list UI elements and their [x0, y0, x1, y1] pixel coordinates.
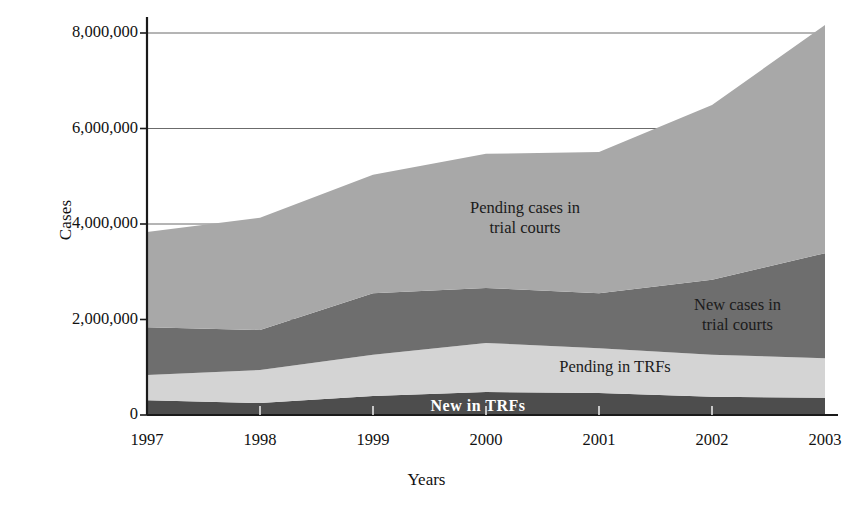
x-tick-label: 1998 [215, 430, 305, 450]
x-axis-title: Years [0, 470, 853, 490]
y-tick-label: 4,000,000 [30, 213, 138, 233]
x-tick-label: 2002 [667, 430, 757, 450]
x-tick-label: 2000 [441, 430, 531, 450]
y-tick-label: 8,000,000 [30, 22, 138, 42]
stacked-areas [147, 25, 825, 415]
x-tick-label: 1999 [328, 430, 418, 450]
x-tick-label: 2003 [780, 430, 853, 450]
x-tick-label: 2001 [554, 430, 644, 450]
x-tick-label: 1997 [102, 430, 192, 450]
y-tick-label: 0 [30, 404, 138, 424]
area-chart: Cases 8,000,0006,000,0004,000,0002,000,0… [0, 0, 853, 506]
y-tick-label: 2,000,000 [30, 309, 138, 329]
y-tick-label: 6,000,000 [30, 118, 138, 138]
